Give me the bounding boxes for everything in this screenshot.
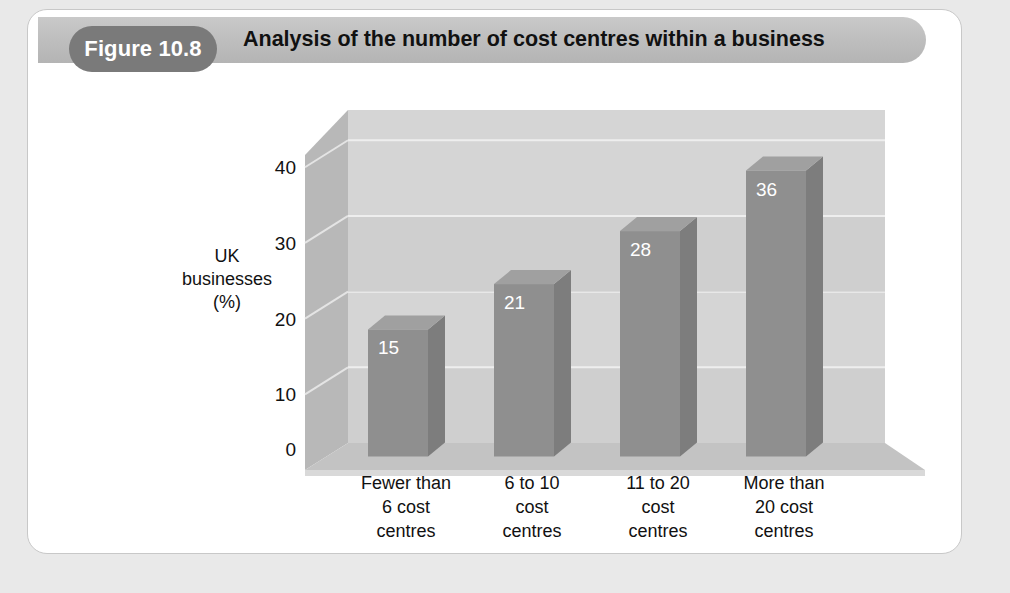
figure-title: Analysis of the number of cost centres w… (243, 27, 825, 52)
figure-header-band: Figure 10.8 Analysis of the number of co… (38, 17, 926, 63)
figure-number-badge: Figure 10.8 (69, 26, 217, 72)
figure-number-label: Figure 10.8 (84, 36, 201, 62)
figure-card (27, 9, 962, 554)
